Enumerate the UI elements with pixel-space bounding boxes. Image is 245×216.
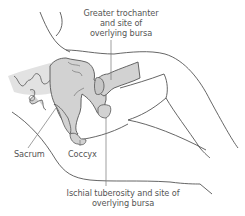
ilium (50, 58, 108, 135)
label-sacrum: Sacrum (14, 149, 45, 159)
body-outline-back (40, 12, 70, 52)
knee-line (128, 120, 206, 150)
label-greater-trochanter-line-2: and site of (76, 18, 166, 28)
label-ischial-tuberosity: Ischial tuberosity and site of overlying… (58, 188, 188, 208)
coccyx (70, 133, 86, 145)
label-greater-trochanter-line-1: Greater trochanter (76, 8, 166, 18)
thigh-crease (128, 98, 210, 158)
ischial-tuberosity (98, 105, 111, 118)
label-ischial-tuberosity-line-2: overlying bursa (58, 198, 188, 208)
label-greater-trochanter: Greater trochanter and site of overlying… (76, 8, 166, 38)
label-coccyx: Coccyx (68, 149, 97, 159)
label-greater-trochanter-line-3: overlying bursa (76, 28, 166, 38)
gluteal-fold (78, 124, 128, 140)
greater-trochanter (95, 77, 105, 94)
arm-outline (56, 12, 62, 36)
anatomy-diagram: Greater trochanter and site of overlying… (0, 0, 245, 216)
leader-sacrum (28, 108, 56, 148)
label-ischial-tuberosity-line-1: Ischial tuberosity and site of (58, 188, 188, 198)
